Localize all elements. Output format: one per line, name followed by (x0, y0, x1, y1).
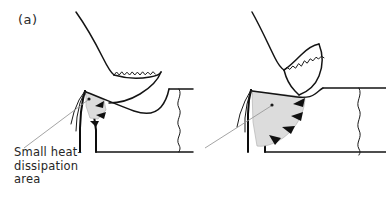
chip-b (252, 12, 324, 95)
chip-a (76, 12, 161, 103)
panel-a-annotation: Small heat- dissipation area (14, 146, 82, 187)
panel-b: (b) (193, 0, 386, 206)
panel-b-drawing (193, 0, 386, 206)
workpiece-a (86, 89, 193, 152)
figure-canvas: (a) (0, 0, 386, 206)
panel-a: (a) (0, 0, 193, 206)
